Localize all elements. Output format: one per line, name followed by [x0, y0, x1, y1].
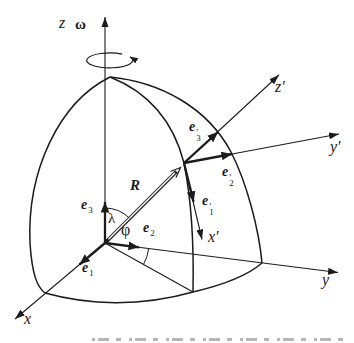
- e2-base: e: [143, 220, 149, 235]
- rotating-frame-diagram: z ω z′ y′ x′ y x R λ φ e1 e2 e3 e′1 e′2 …: [0, 0, 354, 343]
- meridian-upper-arc: [110, 77, 184, 163]
- y-axis-line: [105, 243, 338, 273]
- z-prime-axis-label: z′: [275, 79, 285, 95]
- y-axis-label: y: [322, 272, 329, 288]
- e2-vector: [105, 243, 139, 247]
- e3-prime-base: e: [189, 119, 195, 134]
- e3-prime-vector-label: e′3: [189, 120, 201, 143]
- e1-base: e: [82, 260, 88, 275]
- rotation-arrow-arc: [87, 53, 133, 68]
- cropped-caption-fragment: [92, 338, 350, 341]
- e3-subscript: 3: [88, 205, 93, 215]
- e1-subscript: 1: [89, 268, 94, 278]
- e3-prime-subscript: 3: [196, 134, 201, 143]
- e3-base: e: [81, 197, 87, 212]
- e2-prime-subscript: 2: [229, 179, 234, 188]
- R-vector-label: R: [130, 178, 140, 193]
- y-prime-axis-label: y′: [330, 139, 341, 155]
- phi-angle-arc: [144, 249, 149, 265]
- base-equator-arc: [45, 263, 262, 303]
- e1-prime-subscript: 1: [209, 208, 214, 217]
- dome-left-silhouette: [30, 77, 110, 293]
- z-axis-label: z: [59, 15, 65, 31]
- e2-prime-base: e: [222, 164, 228, 179]
- e2-prime-vector-label: e′2: [222, 165, 234, 188]
- e2-vector-label: e2: [143, 221, 155, 238]
- phi-angle-label: φ: [121, 222, 130, 238]
- equator-foot-line: [105, 243, 193, 292]
- e1-prime-base: e: [202, 193, 208, 208]
- e1-vector-label: e1: [82, 261, 94, 278]
- e1-prime-vector-label: e′1: [202, 194, 214, 217]
- x-prime-axis-label: x′: [208, 229, 219, 245]
- diagram-canvas: [0, 0, 354, 343]
- omega-label: ω: [75, 17, 86, 32]
- x-axis-label: x: [24, 311, 31, 327]
- lambda-angle-label: λ: [108, 211, 115, 226]
- e2-subscript: 2: [150, 228, 155, 238]
- e3-vector-label: e3: [81, 198, 93, 215]
